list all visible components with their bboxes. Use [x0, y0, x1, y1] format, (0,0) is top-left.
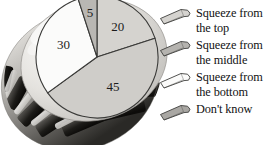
pie-label-30: 30	[57, 37, 70, 52]
tube-swatch-middle-icon	[157, 39, 193, 58]
pie-label-20: 20	[111, 19, 124, 34]
pie-label-5: 5	[87, 5, 94, 20]
tube-swatch-top-icon	[157, 7, 193, 26]
tube-swatch-dont-know-icon	[157, 103, 193, 122]
legend-label-squeeze-from-the-bottom: Squeeze from the bottom	[196, 70, 263, 99]
bottle-cap-illustration: 20 45 30 5	[0, 0, 160, 145]
legend-item-squeeze-from-the-top[interactable]: Squeeze from the top	[157, 6, 263, 35]
figure-root: 20 45 30 5 Squeeze from the top Squeeze …	[0, 0, 280, 145]
pie-chart: 20 45 30 5	[0, 0, 160, 145]
legend: Squeeze from the top Squeeze from the mi…	[157, 6, 280, 142]
legend-item-dont-know[interactable]: Don't know	[157, 102, 252, 122]
legend-item-squeeze-from-the-middle[interactable]: Squeeze from the middle	[157, 38, 263, 67]
legend-item-squeeze-from-the-bottom[interactable]: Squeeze from the bottom	[157, 70, 263, 99]
tube-swatch-bottom-icon	[157, 71, 193, 90]
legend-label-dont-know: Don't know	[196, 102, 252, 117]
pie-slices	[36, 0, 158, 118]
pie-label-45: 45	[107, 79, 120, 94]
legend-label-squeeze-from-the-top: Squeeze from the top	[196, 6, 263, 35]
legend-label-squeeze-from-the-middle: Squeeze from the middle	[196, 38, 263, 67]
